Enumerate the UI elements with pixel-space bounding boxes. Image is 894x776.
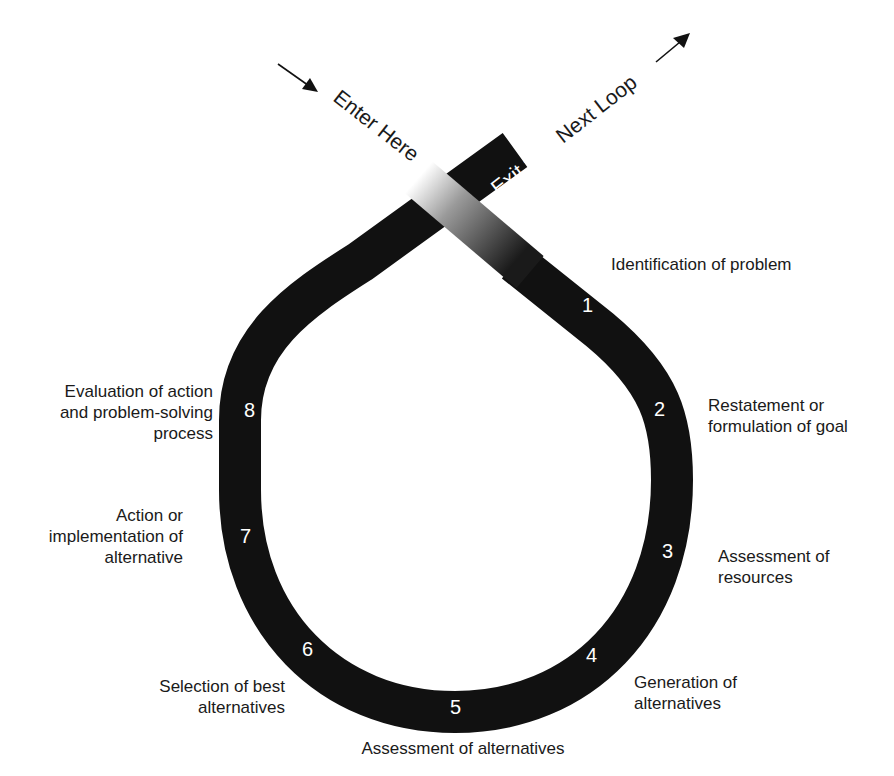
exit-band (240, 150, 515, 420)
step-number-3: 3 (662, 540, 673, 562)
step-label-8: Evaluation of action and problem-solving… (10, 381, 213, 444)
step-label-7-line: alternative (40, 547, 183, 568)
step-number-8: 8 (244, 399, 255, 421)
step-label-2-line: Restatement or (708, 395, 848, 416)
enter-arrow-icon (278, 64, 318, 92)
enter-here-label: Enter Here (330, 85, 424, 166)
step-label-8-line: process (10, 423, 213, 444)
step-label-3-line: resources (718, 567, 830, 588)
step-number-5: 5 (450, 696, 461, 718)
step-label-6-line: alternatives (100, 697, 285, 718)
step-label-2-line: formulation of goal (708, 416, 848, 437)
step-label-1-line: Identification of problem (611, 254, 792, 275)
exit-arrow-icon (656, 33, 690, 62)
step-number-1: 1 (582, 294, 593, 316)
step-number-4: 4 (586, 644, 597, 666)
step-number-6: 6 (302, 638, 313, 660)
step-label-3: Assessment of resources (718, 546, 830, 588)
step-label-7: Action or implementation of alternative (40, 505, 183, 568)
step-label-7-line: implementation of (40, 526, 183, 547)
step-label-8-line: Evaluation of action (10, 381, 213, 402)
step-label-1: Identification of problem (611, 254, 792, 275)
step-label-4: Generation of alternatives (634, 672, 737, 714)
step-label-5-line: Assessment of alternatives (318, 738, 608, 759)
step-number-2: 2 (654, 398, 665, 420)
step-label-6: Selection of best alternatives (100, 676, 285, 718)
step-number-7: 7 (240, 525, 251, 547)
step-label-4-line: alternatives (634, 693, 737, 714)
step-label-6-line: Selection of best (100, 676, 285, 697)
step-label-5: Assessment of alternatives (318, 738, 608, 759)
step-label-2: Restatement or formulation of goal (708, 395, 848, 437)
step-label-7-line: Action or (40, 505, 183, 526)
step-label-8-line: and problem-solving (10, 402, 213, 423)
step-label-3-line: Assessment of (718, 546, 830, 567)
step-label-4-line: Generation of (634, 672, 737, 693)
next-loop-label: Next Loop (551, 70, 641, 147)
